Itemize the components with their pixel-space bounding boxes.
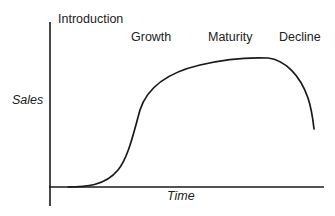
stage-label-decline: Decline — [279, 31, 321, 44]
product-life-cycle-diagram: Introduction Growth Maturity Decline Sal… — [0, 0, 335, 216]
x-axis-label: Time — [167, 190, 195, 203]
sales-curve — [68, 58, 314, 187]
y-axis-label: Sales — [12, 94, 43, 107]
stage-label-growth: Growth — [131, 31, 171, 44]
stage-label-maturity: Maturity — [208, 31, 252, 44]
stage-label-introduction: Introduction — [58, 13, 123, 26]
